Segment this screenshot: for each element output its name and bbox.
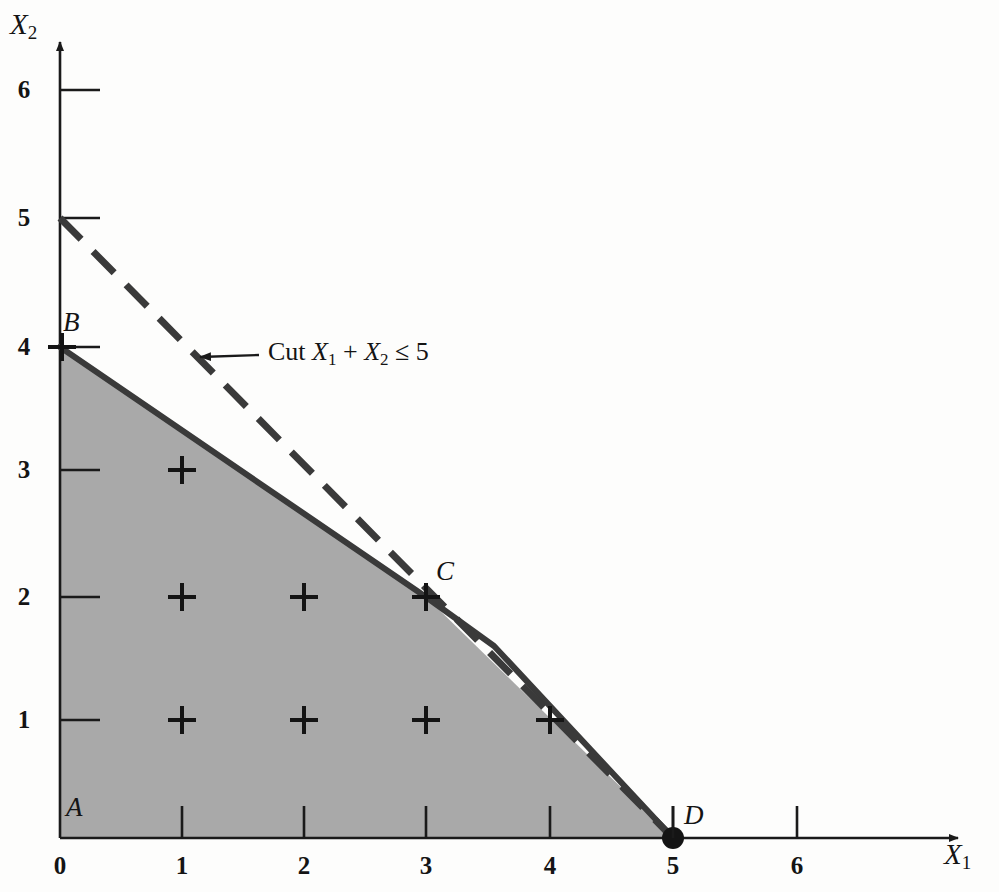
- x-tick-label-4: 4: [530, 852, 570, 880]
- integer-feasible-region: [60, 347, 673, 838]
- x-axis-title: X1: [944, 838, 971, 871]
- x-tick-label-6: 6: [777, 852, 817, 880]
- y-tick-label-5: 5: [4, 204, 44, 232]
- x-tick-label-0: 0: [40, 852, 80, 880]
- plot-canvas: [0, 0, 999, 892]
- y-tick-label-1: 1: [4, 706, 44, 734]
- y-tick-label-2: 2: [4, 583, 44, 611]
- x-tick-label-2: 2: [284, 852, 324, 880]
- cut-annotation-relation: ≤ 5: [389, 337, 429, 366]
- cut-annotation-x2-sub: 2: [380, 350, 389, 369]
- y-axis-title: X2: [10, 8, 37, 41]
- cut-annotation-x2: X: [364, 337, 380, 366]
- cut-annotation-plus: +: [336, 337, 364, 366]
- cut-annotation-x1-sub: 1: [328, 350, 337, 369]
- vertex-label-c: C: [436, 556, 454, 587]
- y-tick-label-4: 4: [4, 333, 44, 361]
- integer-programming-cut-figure: X2 X1 6 5 4 3 2 1 0 1 2 3 4 5 6 A B C D …: [0, 0, 999, 892]
- cut-annotation-arrow: [200, 355, 259, 357]
- y-tick-label-3: 3: [4, 456, 44, 484]
- x-tick-label-3: 3: [406, 852, 446, 880]
- cut-annotation-prefix: Cut: [268, 337, 312, 366]
- cut-annotation-x1: X: [312, 337, 328, 366]
- y-tick-label-6: 6: [4, 76, 44, 104]
- x-tick-label-1: 1: [162, 852, 202, 880]
- x-tick-label-5: 5: [653, 852, 693, 880]
- cut-annotation-label: Cut X1 + X2 ≤ 5: [268, 337, 429, 367]
- vertex-label-b: B: [63, 307, 80, 338]
- vertex-label-d: D: [684, 800, 704, 831]
- vertex-label-a: A: [66, 792, 83, 823]
